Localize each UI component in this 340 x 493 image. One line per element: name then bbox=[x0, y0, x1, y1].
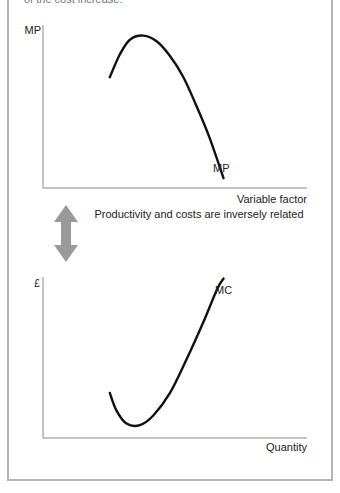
mp-chart: MP Variable factor MP bbox=[25, 24, 308, 205]
inverse-relationship-arrow-icon bbox=[54, 205, 78, 262]
mp-y-axis-label: MP bbox=[25, 24, 42, 36]
diagram-canvas: MP Variable factor MP Productivity and c… bbox=[0, 0, 340, 493]
mp-curve bbox=[110, 36, 224, 179]
mp-x-axis-label: Variable factor bbox=[237, 193, 307, 205]
mc-curve bbox=[110, 279, 224, 426]
mc-chart: £ Quantity MC bbox=[34, 277, 307, 453]
relationship-caption: Productivity and costs are inversely rel… bbox=[94, 208, 303, 220]
mc-x-axis-label: Quantity bbox=[266, 441, 307, 453]
mp-curve-label: MP bbox=[213, 162, 230, 174]
mc-y-axis-label: £ bbox=[34, 278, 40, 289]
mc-curve-label: MC bbox=[215, 284, 232, 296]
